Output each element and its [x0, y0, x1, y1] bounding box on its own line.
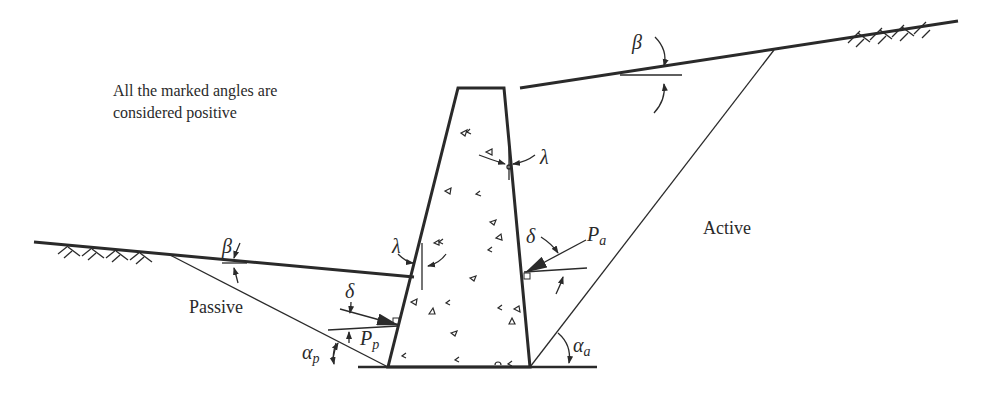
lambda-left-symbol: λ — [392, 236, 401, 256]
passive-thrust-label: Pp — [360, 328, 379, 355]
alpha-p-main: α — [302, 341, 313, 363]
alpha-p-label: αp — [302, 342, 320, 369]
active-region-label: Active — [703, 218, 751, 239]
delta-active-symbol: δ — [526, 226, 535, 246]
note-line-1: All the marked angles are — [113, 80, 277, 102]
delta-passive-symbol: δ — [345, 281, 354, 301]
alpha-a-label: αa — [573, 335, 591, 362]
active-thrust-label: Pa — [587, 224, 606, 251]
lambda-top-angle-marker — [479, 140, 535, 180]
note-line-2: considered positive — [113, 102, 277, 124]
alpha-a-angle-marker — [558, 333, 570, 363]
alpha-p-sub: p — [313, 351, 320, 366]
pa-main: P — [587, 223, 599, 245]
alpha-p-angle-marker — [333, 343, 338, 364]
passive-region-label: Passive — [189, 297, 243, 318]
lambda-top-symbol: λ — [540, 147, 549, 167]
alpha-a-main: α — [573, 334, 584, 356]
lambda-left-angle-marker — [398, 243, 446, 290]
pa-sub: a — [599, 233, 606, 248]
retaining-wall-diagram — [0, 0, 989, 395]
pp-sub: p — [372, 337, 379, 352]
alpha-a-sub: a — [584, 344, 591, 359]
retaining-wall — [388, 88, 530, 367]
pp-main: P — [360, 327, 372, 349]
sign-convention-note: All the marked angles are considered pos… — [113, 80, 277, 124]
beta-top-symbol: β — [632, 32, 642, 52]
beta-left-symbol: β — [222, 236, 232, 256]
concrete-aggregate-marks — [402, 129, 520, 366]
active-failure-plane — [530, 50, 774, 367]
active-ground-surface — [520, 21, 958, 88]
beta-top-angle-marker — [620, 37, 682, 113]
